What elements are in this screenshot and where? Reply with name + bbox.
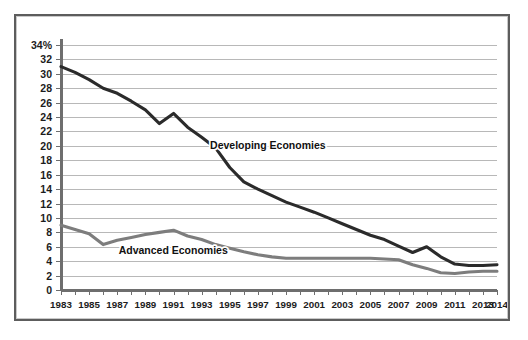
y-tick-label: 22 [40,125,52,137]
x-tick-label: 2003 [331,299,353,310]
x-tick-label: 1997 [247,299,269,310]
x-tick-label: 1995 [219,299,241,310]
x-tick-label: 1999 [275,299,297,310]
x-tick-label: 2001 [303,299,325,310]
y-axis-tick-labels: 0246810121416182022242628303234% [31,39,53,296]
x-tick-label: 1993 [191,299,213,310]
x-tick-label: 1987 [106,299,128,310]
x-tick-label: 2009 [416,299,438,310]
x-tick-label: 2005 [360,299,382,310]
y-tick-label: 12 [40,198,52,210]
y-tick-label: 24 [40,111,52,123]
y-tick-label: 16 [40,169,52,181]
series-line-developing-economies [61,67,497,266]
y-tick-label: 34% [31,39,53,51]
y-tick-label: 4 [46,255,52,267]
x-tick-label: 1991 [163,299,185,310]
x-tick-label: 1989 [134,299,156,310]
y-tick-label: 2 [46,270,52,282]
series-label-advanced-economies: Advanced Economies [119,244,228,256]
y-tick-label: 28 [40,82,52,94]
x-tick-label: 2014 [486,299,507,310]
y-axis-tick-marks [56,46,61,291]
y-tick-label: 14 [40,183,52,195]
y-tick-label: 8 [46,226,52,238]
x-tick-label: 2007 [388,299,410,310]
chart-plot-area: 0246810121416182022242628303234% 1983198… [17,17,507,318]
y-tick-label: 32 [40,53,52,65]
x-axis-tick-labels: 1983198519871989199119931995199719992001… [50,299,507,310]
y-tick-label: 0 [46,284,52,296]
y-tick-label: 18 [40,154,52,166]
y-tick-label: 6 [46,241,52,253]
chart-frame: 0246810121416182022242628303234% 1983198… [14,14,510,321]
data-series [61,67,497,274]
line-chart: 0246810121416182022242628303234% 1983198… [17,17,507,318]
x-tick-label: 2011 [444,299,466,310]
y-tick-label: 10 [40,212,52,224]
x-tick-label: 1983 [50,299,72,310]
series-label-developing-economies: Developing Economies [210,139,326,151]
y-tick-label: 30 [40,68,52,80]
x-tick-label: 1985 [78,299,100,310]
y-tick-label: 26 [40,97,52,109]
y-tick-label: 20 [40,140,52,152]
gridlines [61,46,497,277]
